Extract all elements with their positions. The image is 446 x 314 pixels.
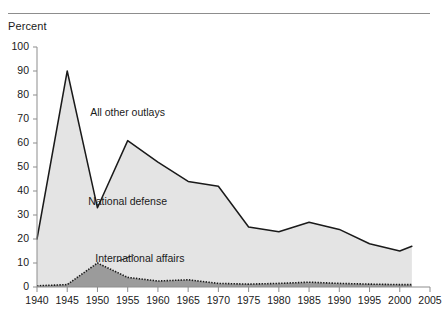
x-tick-label: 1955 (112, 294, 144, 306)
y-tick-label: 40 (3, 185, 29, 196)
x-tick-label: 2005 (414, 294, 446, 306)
x-tick-label: 1950 (81, 294, 113, 306)
x-tick-label: 1985 (293, 294, 325, 306)
y-tick-label: 50 (3, 161, 29, 172)
y-tick-label: 0 (3, 281, 29, 292)
y-tick-label: 60 (3, 137, 29, 148)
y-tick-label: 90 (3, 65, 29, 76)
area-all-other-outlays (37, 71, 412, 287)
x-tick-label: 1995 (354, 294, 386, 306)
x-tick-label: 1965 (172, 294, 204, 306)
series-annotation: International affairs (95, 252, 184, 264)
x-tick-label: 1945 (51, 294, 83, 306)
x-tick-label: 2000 (384, 294, 416, 306)
y-tick-label: 80 (3, 89, 29, 100)
y-tick-label: 70 (3, 113, 29, 124)
series-annotation: All other outlays (90, 106, 165, 118)
x-tick-label: 1990 (323, 294, 355, 306)
x-tick-label: 1940 (21, 294, 53, 306)
y-tick-label: 100 (3, 41, 29, 52)
y-tick-label: 30 (3, 209, 29, 220)
y-tick-label: 20 (3, 233, 29, 244)
y-tick-label: 10 (3, 257, 29, 268)
series-annotation: National defense (88, 195, 167, 207)
x-tick-label: 1975 (233, 294, 265, 306)
x-tick-label: 1960 (142, 294, 174, 306)
x-tick-label: 1980 (263, 294, 295, 306)
x-tick-label: 1970 (202, 294, 234, 306)
